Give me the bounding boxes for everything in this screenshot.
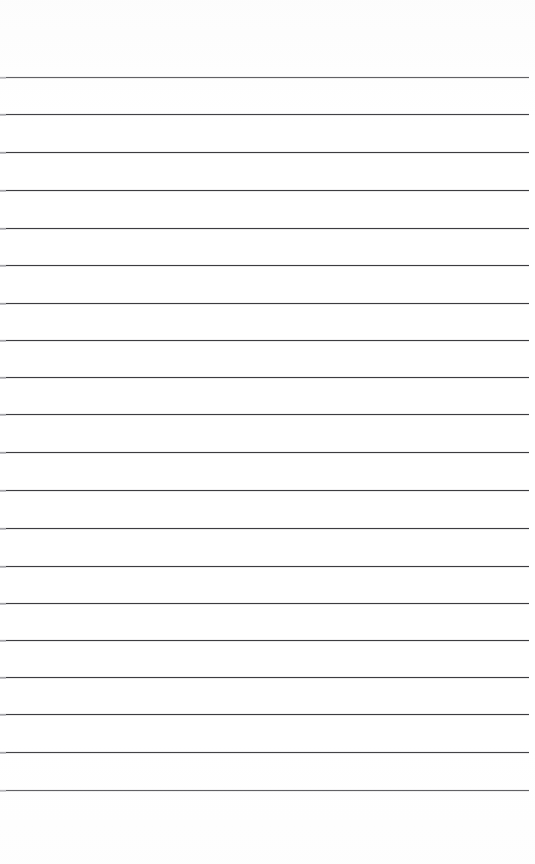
ruled-line-stroke — [0, 265, 529, 266]
ruled-line-stroke — [0, 452, 529, 453]
ruled-line-left-edge-tick — [0, 603, 6, 605]
ruled-line-stroke — [0, 790, 529, 791]
ruled-line-stroke — [0, 490, 529, 491]
ruled-line-stroke — [0, 677, 529, 678]
ruled-line-stroke — [0, 752, 529, 753]
ruled-line-left-edge-tick — [0, 340, 6, 342]
ruled-line-stroke — [0, 714, 529, 715]
ruled-line-left-edge-tick — [0, 528, 6, 530]
ruled-line-stroke — [0, 340, 529, 341]
ruled-line-stroke — [0, 228, 529, 229]
ruled-line-left-edge-tick — [0, 566, 6, 568]
ruled-line-left-edge-tick — [0, 377, 6, 379]
ruled-line-left-edge-tick — [0, 452, 6, 454]
page-description: Blank ruled notebook paper page with twe… — [0, 0, 1, 1]
ruled-line-stroke — [0, 528, 529, 529]
ruled-line-stroke — [0, 190, 529, 191]
ruled-line-left-edge-tick — [0, 677, 6, 679]
ruled-line-left-edge-tick — [0, 190, 6, 192]
ruled-line-stroke — [0, 152, 529, 153]
ruled-line-left-edge-tick — [0, 490, 6, 492]
ruled-line-left-edge-tick — [0, 152, 6, 154]
ruled-line-stroke — [0, 377, 529, 378]
ruled-line-left-edge-tick — [0, 640, 6, 642]
ruled-line-left-edge-tick — [0, 114, 6, 116]
ruled-line-left-edge-tick — [0, 228, 6, 230]
ruled-line-stroke — [0, 603, 529, 604]
ruled-line-left-edge-tick — [0, 414, 6, 416]
ruled-line-left-edge-tick — [0, 790, 6, 792]
ruled-line-left-edge-tick — [0, 752, 6, 754]
ruled-line-stroke — [0, 303, 529, 304]
ruled-line-left-edge-tick — [0, 265, 6, 267]
ruled-line-stroke — [0, 114, 529, 115]
ruled-paper-page: Blank ruled notebook paper page with twe… — [0, 0, 535, 864]
paper-grain-overlay — [0, 0, 535, 864]
ruled-line-left-edge-tick — [0, 77, 6, 79]
ruled-line-stroke — [0, 566, 529, 567]
ruled-line-left-edge-tick — [0, 303, 6, 305]
ruled-line-stroke — [0, 77, 529, 78]
ruled-line-left-edge-tick — [0, 714, 6, 716]
ruled-line-stroke — [0, 414, 529, 415]
ruled-line-stroke — [0, 640, 529, 641]
